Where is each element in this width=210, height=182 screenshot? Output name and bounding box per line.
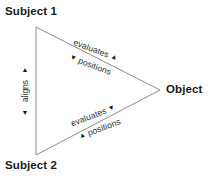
- node-label-subject-1: Subject 1: [5, 5, 57, 17]
- edge-label-aligns: aligns: [20, 80, 30, 102]
- arrow-down-icon: ▼: [22, 109, 29, 116]
- node-label-object: Object: [166, 83, 202, 95]
- node-label-subject-2: Subject 2: [5, 159, 57, 171]
- edge-label-group-aligns: ▲ aligns ▼: [18, 66, 32, 116]
- relationship-triangle-diagram: Subject 1 Subject 2 Object ▲ aligns ▼ ev…: [0, 0, 210, 182]
- arrow-up-icon: ▲: [22, 66, 29, 73]
